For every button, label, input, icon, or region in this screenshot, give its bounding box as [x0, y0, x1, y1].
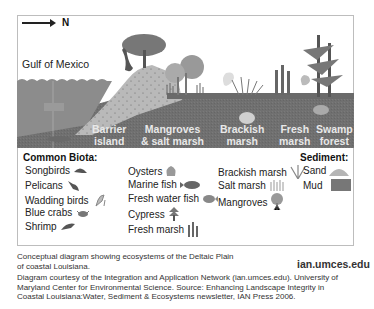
- zone-fresh-marsh: Fresh marsh: [279, 123, 311, 147]
- north-indicator: N: [22, 17, 69, 28]
- legend-marine-fish: Marine fish: [128, 179, 202, 190]
- salt-marsh-icon: [269, 179, 285, 191]
- legend-blue-crabs: Blue crabs: [25, 207, 91, 218]
- legend-mangroves: Mangroves: [218, 193, 284, 211]
- shrimp-icon: [60, 222, 76, 232]
- sand-icon: [329, 166, 349, 176]
- legend-wading-birds: Wadding birds: [25, 193, 110, 207]
- legend-fresh-marsh: Fresh marsh: [128, 221, 199, 237]
- cypress-icon: [168, 207, 180, 221]
- mangrove-icon: [270, 193, 284, 211]
- songbird-icon: [73, 166, 87, 176]
- sediment-title: Sediment:: [300, 152, 348, 163]
- credit-text: Diagram courtesy of the Integration and …: [17, 273, 338, 302]
- legend-songbirds: Songbirds: [25, 165, 87, 176]
- north-label: N: [62, 17, 69, 28]
- legend-cypress: Cypress: [128, 207, 180, 221]
- legend-shrimp: Shrimp: [25, 221, 76, 232]
- legend-fresh-water-fish: Fresh water fish: [128, 193, 218, 204]
- legend-pelicans: Pelicans: [25, 179, 80, 191]
- north-arrow-icon: [22, 22, 52, 24]
- zone-barrier-island: Barrier island: [92, 123, 126, 147]
- figure-caption: Conceptual diagram showing ecosystems of…: [17, 252, 234, 271]
- freshwater-fish-icon: [202, 194, 218, 204]
- legend-mud: Mud: [303, 179, 351, 191]
- legend-brackish-marsh: Brackish marsh: [218, 165, 306, 179]
- legend-sand: Sand: [303, 165, 349, 176]
- wading-bird-icon: [92, 193, 110, 207]
- zone-brackish-marsh: Brackish marsh: [220, 123, 264, 147]
- crab-icon: [75, 208, 91, 218]
- mud-icon: [331, 179, 351, 191]
- gulf-of-mexico-label: Gulf of Mexico: [22, 58, 89, 70]
- oyster-icon: [165, 165, 177, 177]
- legend-salt-marsh: Salt marsh: [218, 179, 285, 191]
- fresh-marsh-icon: [187, 221, 199, 237]
- legend: Common Biota: Sediment: Songbirds Pelica…: [17, 148, 354, 246]
- pelican-icon: [66, 179, 80, 191]
- zone-mangroves-salt-marsh: Mangroves & salt marsh: [141, 123, 204, 147]
- zone-swamp-forest: Swamp forest: [316, 123, 353, 147]
- marine-fish-icon: [180, 180, 202, 190]
- brand-url: ian.umces.edu: [297, 258, 370, 270]
- legend-oysters: Oysters: [128, 165, 177, 177]
- biota-title: Common Biota:: [23, 152, 97, 163]
